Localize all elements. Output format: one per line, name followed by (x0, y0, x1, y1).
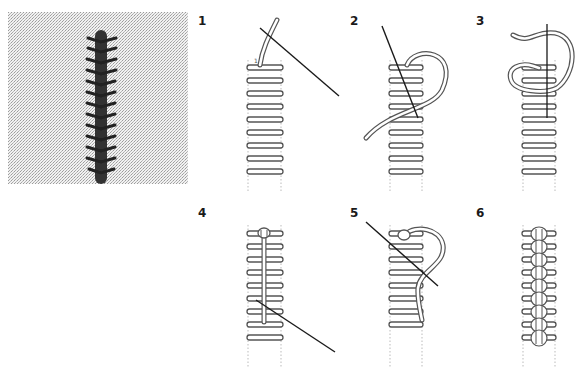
step-5-diagram (360, 220, 460, 370)
step-3-diagram (505, 10, 585, 195)
step-number-3: 3 (476, 14, 484, 28)
step-6-diagram (505, 220, 585, 370)
step-1-diagram: 1 (240, 10, 350, 195)
step-number-1: 1 (198, 14, 206, 28)
start-point-label: 1 (254, 57, 258, 64)
step-4-diagram (240, 220, 350, 370)
step-number-2: 2 (350, 14, 358, 28)
stitch-sample-photo (8, 12, 188, 184)
step-2-diagram (360, 10, 460, 195)
step-number-6: 6 (476, 206, 484, 220)
step-number-5: 5 (350, 206, 358, 220)
step-number-4: 4 (198, 206, 206, 220)
